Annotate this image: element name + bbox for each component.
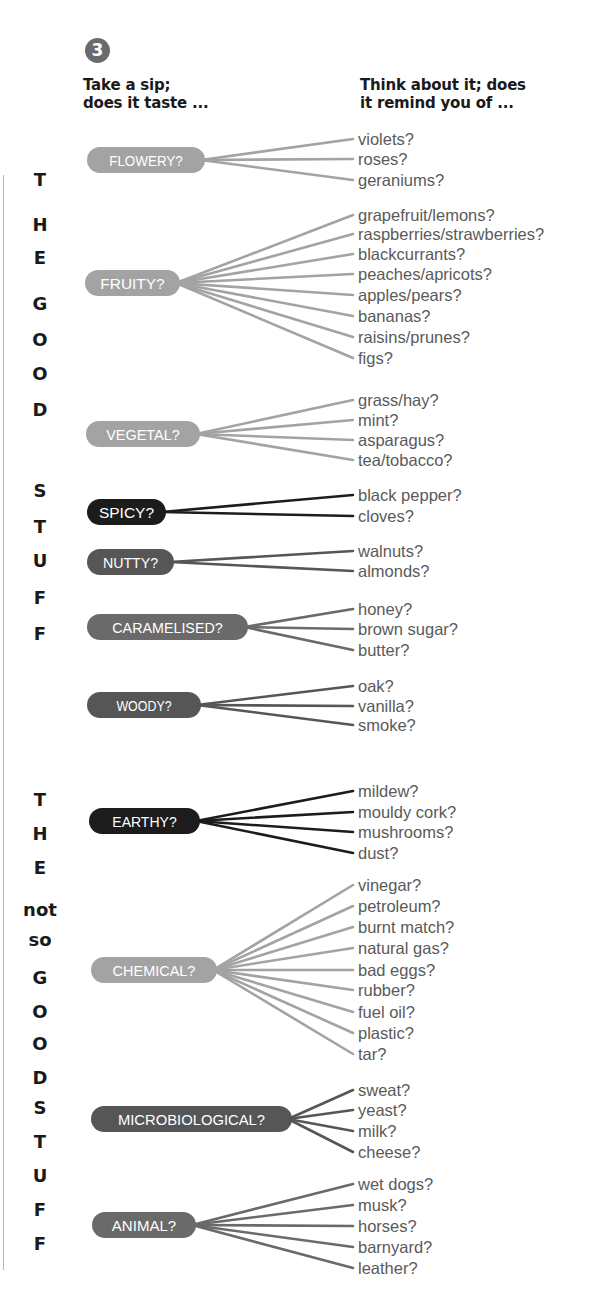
branch-connector-line — [162, 512, 353, 516]
category-branch-spicy: black pepper?cloves?SPICY? — [87, 486, 462, 525]
flavour-note-label: grass/hay? — [358, 391, 439, 409]
branch-connector-line — [213, 970, 353, 1012]
branch-connector-line — [192, 1225, 353, 1247]
flavour-note-label: dust? — [358, 844, 398, 862]
category-branch-animal: wet dogs?musk?horses?barnyard?leather?AN… — [92, 1175, 433, 1277]
category-branch-nutty: walnuts?almonds?NUTTY? — [87, 542, 430, 580]
wine-tasting-diagram: 3 Take a sip; does it taste ... Think ab… — [0, 0, 602, 1300]
flavour-note-label: figs? — [358, 349, 393, 367]
flavour-note-label: asparagus? — [358, 431, 444, 449]
category-pill-label: NUTTY? — [103, 554, 159, 571]
branch-connector-line — [192, 1205, 353, 1225]
category-branch-woody: oak?vanilla?smoke?WOODY? — [87, 677, 416, 734]
branch-connector-line — [197, 705, 353, 725]
flavour-note-label: almonds? — [358, 562, 430, 580]
flavour-note-label: rubber? — [358, 981, 415, 999]
flavour-note-label: brown sugar? — [358, 620, 458, 638]
category-pill-label: FRUITY? — [100, 275, 165, 292]
flavour-note-label: geraniums? — [358, 171, 444, 189]
branch-connector-line — [213, 970, 353, 1054]
branch-connector-line — [192, 1184, 353, 1225]
category-branch-flowery: violets?roses?geraniums?FLOWERY? — [87, 130, 444, 189]
category-pill-label: EARTHY? — [112, 813, 177, 830]
flavour-note-label: mouldy cork? — [358, 803, 456, 821]
flavour-note-label: honey? — [358, 600, 412, 618]
branch-connector-line — [213, 885, 353, 970]
flavour-note-label: grapefruit/lemons? — [358, 206, 495, 224]
category-branch-fruity: grapefruit/lemons?raspberries/strawberri… — [85, 206, 544, 367]
flavour-note-label: leather? — [358, 1259, 418, 1277]
flavour-note-label: raisins/prunes? — [358, 328, 470, 346]
category-branch-microbiological: sweat?yeast?milk?cheese?MICROBIOLOGICAL? — [91, 1081, 420, 1161]
flavour-note-label: raspberries/strawberries? — [358, 225, 544, 243]
branch-connector-line — [176, 215, 353, 283]
flavour-note-label: tea/tobacco? — [358, 451, 453, 469]
flavour-note-label: sweat? — [358, 1081, 410, 1099]
flavour-note-label: plastic? — [358, 1024, 414, 1042]
category-branch-earthy: mildew?mouldy cork?mushrooms?dust?EARTHY… — [89, 782, 456, 862]
flavour-note-label: apples/pears? — [358, 286, 462, 304]
category-branch-vegetal: grass/hay?mint?asparagus?tea/tobacco?VEG… — [86, 391, 453, 469]
flavour-note-label: bananas? — [358, 307, 431, 325]
branch-connector-line — [170, 551, 353, 562]
flavour-tree: violets?roses?geraniums?FLOWERY?grapefru… — [0, 0, 602, 1300]
branch-connector-line — [192, 1225, 353, 1268]
flavour-note-label: smoke? — [358, 716, 416, 734]
flavour-note-label: barnyard? — [358, 1238, 432, 1256]
flavour-note-label: yeast? — [358, 1101, 407, 1119]
branch-connector-line — [196, 420, 353, 434]
category-pill-label: ANIMAL? — [112, 1217, 177, 1234]
branch-connector-line — [162, 495, 353, 512]
branch-connector-line — [201, 160, 353, 180]
branch-connector-line — [192, 1225, 353, 1226]
flavour-note-label: black pepper? — [358, 486, 462, 504]
category-pill-label: CARAMELISED? — [112, 619, 223, 636]
category-pill-label: MICROBIOLOGICAL? — [118, 1111, 266, 1128]
flavour-note-label: oak? — [358, 677, 394, 695]
category-branch-caramelised: honey?brown sugar?butter?CARAMELISED? — [87, 600, 458, 659]
category-pill-label: VEGETAL? — [106, 426, 180, 443]
branch-connector-line — [201, 139, 353, 160]
category-pill-label: SPICY? — [99, 504, 155, 521]
branch-connector-line — [244, 627, 353, 629]
flavour-note-label: vanilla? — [358, 697, 414, 715]
branch-connector-line — [213, 906, 353, 970]
flavour-note-label: burnt match? — [358, 918, 454, 936]
flavour-note-label: cloves? — [358, 507, 414, 525]
flavour-note-label: mildew? — [358, 782, 419, 800]
branch-connector-line — [170, 562, 353, 571]
flavour-note-label: walnuts? — [357, 542, 423, 560]
flavour-note-label: tar? — [358, 1045, 386, 1063]
category-pill-label: CHEMICAL? — [113, 962, 196, 979]
flavour-note-label: musk? — [358, 1196, 407, 1214]
category-pill-label: FLOWERY? — [109, 152, 183, 169]
branch-connector-line — [197, 686, 353, 705]
flavour-note-label: natural gas? — [358, 939, 449, 957]
flavour-note-label: roses? — [358, 150, 408, 168]
branch-connector-line — [213, 927, 353, 970]
branch-connector-line — [196, 400, 353, 434]
flavour-note-label: blackcurrants? — [358, 245, 465, 263]
flavour-note-label: peaches/apricots? — [358, 265, 492, 283]
flavour-note-label: violets? — [358, 130, 414, 148]
branch-connector-line — [244, 609, 353, 627]
flavour-note-label: horses? — [358, 1217, 417, 1235]
flavour-note-label: butter? — [358, 641, 409, 659]
flavour-note-label: mint? — [358, 411, 398, 429]
branch-connector-line — [201, 159, 353, 160]
flavour-note-label: petroleum? — [358, 897, 441, 915]
flavour-note-label: bad eggs? — [358, 961, 435, 979]
flavour-note-label: mushrooms? — [358, 823, 453, 841]
flavour-note-label: wet dogs? — [357, 1175, 433, 1193]
branch-connector-line — [197, 705, 353, 706]
category-branch-chemical: vinegar?petroleum?burnt match?natural ga… — [91, 876, 454, 1063]
flavour-note-label: vinegar? — [358, 876, 421, 894]
flavour-note-label: cheese? — [358, 1143, 420, 1161]
flavour-note-label: milk? — [358, 1122, 397, 1140]
category-pill-label: WOODY? — [116, 697, 171, 714]
branch-connector-line — [244, 627, 353, 650]
flavour-note-label: fuel oil? — [358, 1003, 415, 1021]
